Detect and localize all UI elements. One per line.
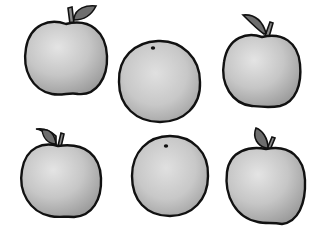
orange-body [119,41,200,122]
apple-body [223,35,300,107]
apple-4 [227,128,306,224]
orange-navel [164,144,168,148]
apple-1 [25,6,107,95]
apple-2 [223,15,300,107]
leaf-icon [255,128,268,148]
stem-icon [68,7,74,24]
orange-body [132,136,208,216]
orange-2 [132,136,208,216]
apple-3 [21,129,101,217]
apple-body [25,22,107,95]
apple-body [227,148,306,224]
leaf-icon [74,6,96,20]
orange-1 [119,41,200,122]
apple-body [21,145,101,217]
illustration-svg [0,0,319,238]
fruit-illustration: Grayscale hand-drawn illustration of six… [0,0,319,238]
leaf-icon [243,15,266,34]
orange-navel [151,46,155,50]
